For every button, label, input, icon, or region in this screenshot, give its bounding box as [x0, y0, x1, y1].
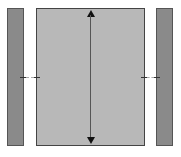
height-dimension-line	[90, 15, 91, 139]
right-gap-guide	[147, 77, 154, 79]
center-panel	[36, 8, 145, 146]
right-bar-tick	[154, 77, 160, 78]
arrow-up-icon	[87, 10, 95, 17]
arrow-down-icon	[87, 137, 95, 144]
panel-left-tick	[34, 77, 40, 78]
left-gap-guide	[26, 77, 34, 79]
